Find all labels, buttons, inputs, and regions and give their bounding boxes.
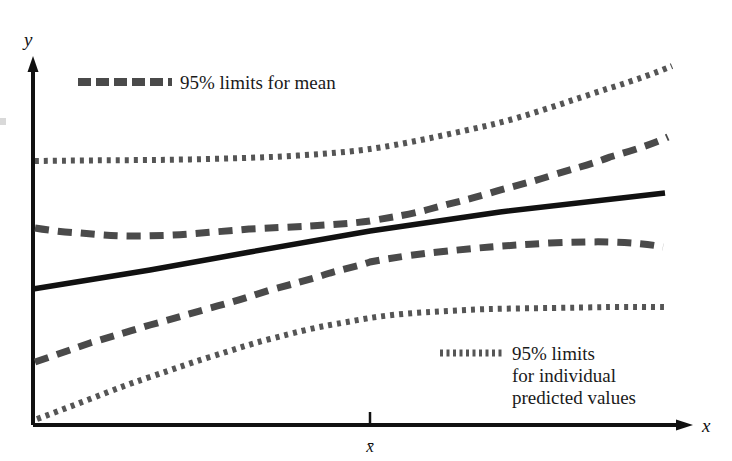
regression-confidence-band-chart: y x x̄ 95% limits for mean 95% limits fo… (0, 0, 732, 461)
legend-individual-limits-label-line-1: 95% limits (512, 343, 595, 364)
y-axis-arrowhead (28, 56, 39, 72)
x-axis-arrowhead (676, 420, 693, 431)
legend-individual-limits-label-line-3: predicted values (512, 387, 636, 408)
legend-mean-limits-label: 95% limits for mean (180, 72, 336, 93)
prediction-limit-upper-curve (35, 66, 672, 161)
legend-mean-limits: 95% limits for mean (78, 72, 336, 93)
mean-limits-band (35, 137, 668, 362)
legend-individual-limits-label-line-2: for individual (512, 365, 616, 386)
regression-line-group (33, 193, 665, 289)
legend-individual-limits: 95% limits for individual predicted valu… (440, 343, 636, 408)
x-axis-label: x (701, 415, 711, 436)
x-mean-tick-label: x̄ (365, 437, 374, 456)
y-axis-label: y (22, 29, 33, 50)
scan-artifact (0, 118, 6, 125)
regression-line (33, 193, 665, 289)
